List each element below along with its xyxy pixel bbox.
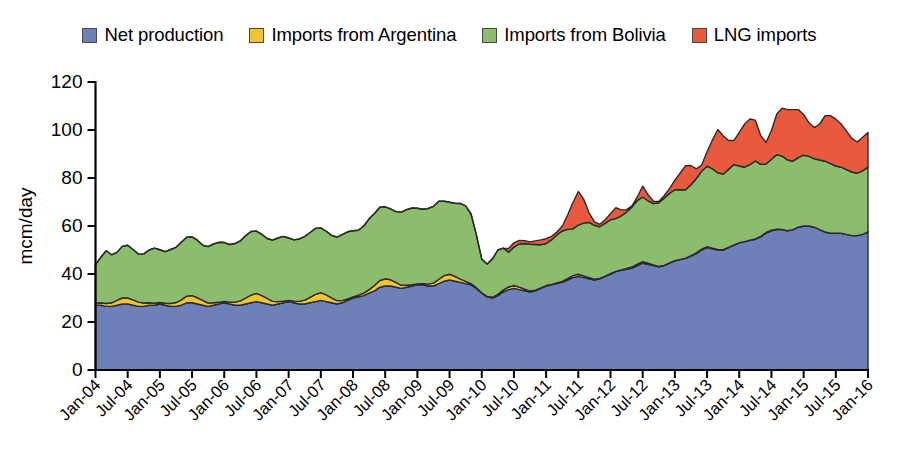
x-tick-label-Jan-04: Jan-04 bbox=[55, 375, 103, 423]
y-tick-label-80: 80 bbox=[61, 167, 82, 188]
plot-area: 020406080100120 Jan-04Jul-04Jan-05Jul-05… bbox=[0, 0, 899, 464]
series-areas bbox=[96, 108, 869, 370]
y-tick-label-0: 0 bbox=[72, 359, 83, 380]
y-tick-label-60: 60 bbox=[61, 215, 82, 236]
y-axis-label: mcm/day bbox=[15, 187, 36, 265]
stacked-area-chart: 020406080100120 Jan-04Jul-04Jan-05Jul-05… bbox=[0, 0, 899, 464]
chart-root: Net production Imports from Argentina Im… bbox=[0, 0, 899, 464]
y-tick-label-40: 40 bbox=[61, 263, 82, 284]
y-axis-title: mcm/day bbox=[15, 187, 36, 265]
y-tick-labels: 020406080100120 bbox=[51, 71, 83, 380]
y-tick-label-20: 20 bbox=[61, 311, 82, 332]
y-tick-label-100: 100 bbox=[51, 119, 83, 140]
y-tick-label-120: 120 bbox=[51, 71, 83, 92]
x-tick-labels: Jan-04Jul-04Jan-05Jul-05Jan-06Jul-06Jan-… bbox=[55, 375, 876, 423]
